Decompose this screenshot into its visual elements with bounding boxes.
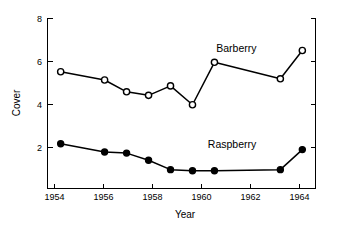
data-point (189, 168, 195, 174)
data-point (123, 89, 129, 95)
x-tick-labels: 1954 1956 1958 1960 1962 1964 (44, 192, 309, 202)
data-point (58, 141, 64, 147)
x-tick-label: 1960 (191, 192, 211, 202)
data-point (299, 47, 305, 53)
y-tick-label: 2 (37, 143, 42, 153)
series-barberry (58, 47, 306, 107)
series-line-barberry (61, 51, 303, 105)
x-tick-marks (55, 184, 300, 189)
y-tick-labels: 8 6 4 2 (37, 14, 42, 153)
data-point (146, 157, 152, 163)
x-axis-title: Year (175, 209, 196, 220)
series-label-raspberry: Raspberry (208, 138, 257, 150)
data-point (102, 149, 108, 155)
data-point (189, 102, 195, 108)
x-tick-label: 1954 (44, 192, 64, 202)
x-tick-label: 1964 (289, 192, 309, 202)
series-line-raspberry (61, 144, 303, 171)
series-raspberry (58, 141, 306, 174)
line-chart: 8 6 4 2 1954 1956 1958 1960 1962 1964 Ye… (0, 0, 337, 228)
data-point (58, 69, 64, 75)
data-point (124, 150, 130, 156)
data-point (277, 76, 283, 82)
data-point (168, 167, 174, 173)
y-tick-marks-right (311, 19, 316, 148)
axes-group (48, 18, 316, 189)
chart-canvas: 8 6 4 2 1954 1956 1958 1960 1962 1964 Ye… (0, 0, 337, 228)
y-tick-label: 6 (37, 57, 42, 67)
x-tick-label: 1958 (142, 192, 162, 202)
y-tick-label: 8 (37, 14, 42, 24)
data-point (145, 92, 151, 98)
data-point (211, 59, 217, 65)
y-axis-title: Cover (11, 89, 22, 116)
series-layer (58, 47, 306, 173)
data-point (102, 77, 108, 83)
y-tick-marks (48, 19, 53, 148)
data-point (277, 167, 283, 173)
x-tick-label: 1956 (93, 192, 113, 202)
data-point (211, 168, 217, 174)
data-point (167, 83, 173, 89)
series-annotations: BarberryRaspberry (208, 42, 257, 151)
x-tick-label: 1962 (240, 192, 260, 202)
y-tick-label: 4 (37, 100, 42, 110)
series-label-barberry: Barberry (216, 42, 257, 54)
data-point (299, 147, 305, 153)
